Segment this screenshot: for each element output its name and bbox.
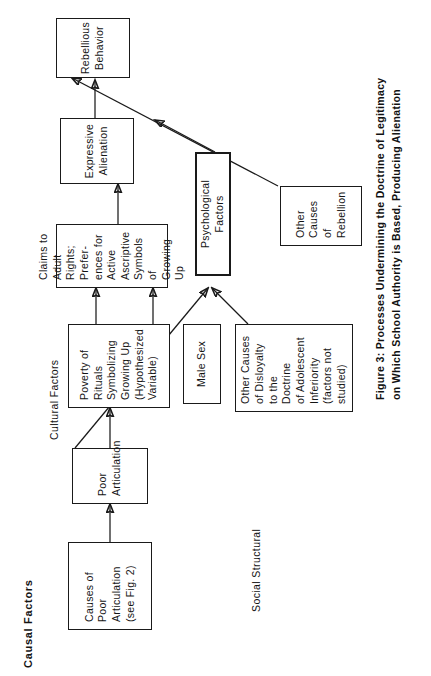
node-male-sex[interactable]: Male Sex xyxy=(183,324,221,404)
node-causes-of-poor-articulation[interactable]: Causes of Poor Articulation (see Fig. 2) xyxy=(68,542,152,630)
node-other-causes-of-rebellion[interactable]: Other Causes of Rebellion xyxy=(280,186,362,246)
node-claims-to-adult-rights[interactable]: Claims to Adult Rights; Prefer- ences fo… xyxy=(56,224,168,288)
figure-caption: Figure 3: Processes Undermining the Doct… xyxy=(372,10,405,400)
rotated-figure-wrapper: Causal Factors Social Structural Cultura… xyxy=(0,0,431,676)
section-label-cultural-factors: Cultural Factors xyxy=(48,359,60,440)
edge-psychological-to-alienation xyxy=(155,120,215,152)
node-other-causes-of-disloyalty[interactable]: Other Causes of Disloyalty to the Doctri… xyxy=(235,324,353,412)
node-rebellious-behavior[interactable]: Rebellious Behavior xyxy=(56,18,130,78)
edge-disloyalty-to-claims xyxy=(212,288,248,324)
section-label-causal-factors: Causal Factors xyxy=(22,579,34,668)
diagram-canvas: Causal Factors Social Structural Cultura… xyxy=(0,0,431,676)
node-expressive-alienation[interactable]: Expressive Alienation xyxy=(60,118,134,184)
node-poor-articulation[interactable]: Poor Articulation xyxy=(72,448,148,504)
section-label-social-structural: Social Structural xyxy=(250,529,262,612)
node-psychological-factors[interactable]: Psychological Factors xyxy=(195,152,231,276)
node-poverty-of-rituals[interactable]: Poverty of Rituals Symbolizing Growing U… xyxy=(68,324,170,408)
